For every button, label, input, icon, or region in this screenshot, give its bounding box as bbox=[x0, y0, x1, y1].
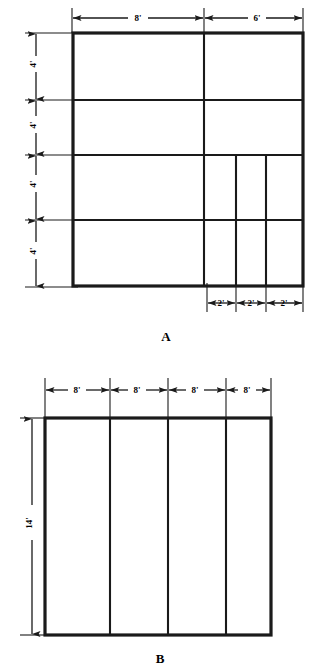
panel-a-left-dim-3: 4' bbox=[28, 180, 38, 187]
panel-b-label: B bbox=[156, 651, 165, 666]
panel-a: 8' 6' 4' 4' 4' 4' bbox=[25, 8, 303, 344]
technical-drawing-figure: 8' 6' 4' 4' 4' 4' bbox=[0, 0, 312, 672]
panel-b-outer-rectangle bbox=[45, 418, 271, 635]
panel-a-top-dim-1: 8' bbox=[134, 13, 141, 23]
panel-a-left-dim-4: 4' bbox=[28, 247, 38, 254]
panel-b-top-dim-3: 8' bbox=[191, 385, 198, 395]
panel-a-left-dim-2: 4' bbox=[28, 121, 38, 128]
panel-a-extension-lines bbox=[25, 8, 303, 312]
panel-b-top-dim-4: 8' bbox=[243, 385, 250, 395]
panel-b-top-dim-2: 8' bbox=[133, 385, 140, 395]
panel-a-top-dim-2: 6' bbox=[253, 13, 260, 23]
panel-a-label: A bbox=[161, 329, 171, 344]
figure-svg: 8' 6' 4' 4' 4' 4' bbox=[0, 0, 312, 672]
panel-a-bottom-dim-2: 2' bbox=[247, 298, 254, 308]
panel-a-outer-rectangle bbox=[73, 33, 303, 286]
panel-b-top-dim-1: 8' bbox=[73, 385, 80, 395]
panel-b-vertical-dividers bbox=[110, 418, 226, 635]
panel-a-bottom-dim-3: 2' bbox=[280, 298, 287, 308]
panel-b-left-dim-1: 14' bbox=[24, 517, 34, 529]
panel-a-left-dim-1: 4' bbox=[28, 60, 38, 67]
panel-b: 8' 8' 8' 8' 14' B bbox=[20, 378, 271, 666]
panel-a-bottom-dim-1: 2' bbox=[217, 298, 224, 308]
panel-a-horizontal-dividers bbox=[73, 100, 303, 220]
